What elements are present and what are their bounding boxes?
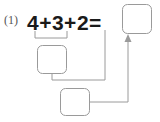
answer-box[interactable] (123, 5, 152, 34)
worksheet-problem-canvas: (1) 4+3+2= (0, 0, 160, 122)
step2-box[interactable] (61, 89, 90, 116)
problem-number-label: (1) (4, 14, 18, 26)
step2-to-answer-connector (90, 34, 132, 102)
step1-box[interactable] (38, 46, 67, 74)
answer-arrowhead (125, 34, 132, 42)
expression-text: 4+3+2= (27, 12, 102, 33)
